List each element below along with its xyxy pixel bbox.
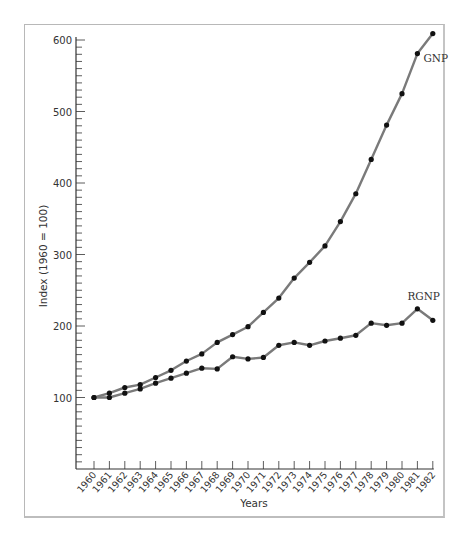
data-point: [322, 243, 327, 248]
series-gnp: GNP: [91, 31, 448, 400]
data-point: [168, 368, 173, 373]
data-point: [153, 375, 158, 380]
data-point: [215, 366, 220, 371]
data-point: [369, 321, 374, 326]
x-axis-title: Years: [239, 497, 268, 509]
data-point: [215, 340, 220, 345]
data-point: [399, 91, 404, 96]
data-point: [430, 318, 435, 323]
data-point: [322, 338, 327, 343]
data-point: [168, 376, 173, 381]
data-point: [122, 391, 127, 396]
data-point: [353, 333, 358, 338]
data-point: [153, 381, 158, 386]
y-tick-label: 500: [53, 107, 72, 118]
data-point: [107, 395, 112, 400]
data-point: [230, 332, 235, 337]
data-point: [184, 371, 189, 376]
series-line: [94, 309, 433, 398]
data-point: [399, 321, 404, 326]
data-point: [276, 296, 281, 301]
data-point: [245, 324, 250, 329]
y-tick-label: 100: [53, 393, 72, 404]
data-point: [184, 358, 189, 363]
data-point: [230, 354, 235, 359]
y-axis-title: Index (1960 = 100): [37, 205, 49, 308]
data-point: [384, 122, 389, 127]
data-point: [91, 395, 96, 400]
data-point: [261, 355, 266, 360]
data-point: [384, 323, 389, 328]
data-point: [276, 343, 281, 348]
series-line: [94, 34, 433, 398]
y-tick-label: 600: [53, 35, 72, 46]
data-point: [353, 191, 358, 196]
line-chart: 100200300400500600 196019611962196319641…: [0, 0, 469, 542]
y-tick-label: 300: [53, 250, 72, 261]
data-point: [292, 275, 297, 280]
data-point: [261, 310, 266, 315]
data-point: [199, 351, 204, 356]
data-point: [338, 336, 343, 341]
series-label-gnp: GNP: [423, 52, 448, 64]
data-point: [430, 31, 435, 36]
x-axis: 1960196119621963196419651966196719681969…: [75, 461, 438, 495]
data-point: [415, 51, 420, 56]
y-tick-label: 400: [53, 178, 72, 189]
data-point: [122, 385, 127, 390]
y-axis: 100200300400500600: [53, 35, 85, 469]
y-tick-label: 200: [53, 321, 72, 332]
data-point: [292, 340, 297, 345]
series-label-rgnp: RGNP: [407, 290, 440, 302]
series-layer: GNPRGNP: [91, 31, 448, 400]
data-point: [307, 260, 312, 265]
data-point: [199, 366, 204, 371]
data-point: [369, 157, 374, 162]
data-point: [245, 356, 250, 361]
data-point: [138, 386, 143, 391]
data-point: [307, 343, 312, 348]
data-point: [415, 306, 420, 311]
data-point: [338, 219, 343, 224]
